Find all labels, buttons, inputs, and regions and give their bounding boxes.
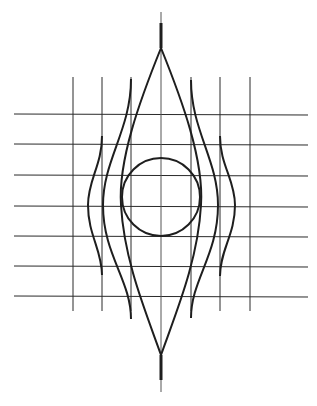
distortion-diagram bbox=[0, 0, 317, 406]
curve-mid-left bbox=[103, 79, 131, 319]
curve-outer-right bbox=[220, 136, 235, 276]
curve-lens-right bbox=[161, 48, 201, 355]
curve-mid-right bbox=[191, 80, 218, 318]
curve-lens-left bbox=[121, 48, 161, 355]
diagram-canvas bbox=[0, 0, 317, 406]
curve-outer-left bbox=[88, 136, 102, 275]
